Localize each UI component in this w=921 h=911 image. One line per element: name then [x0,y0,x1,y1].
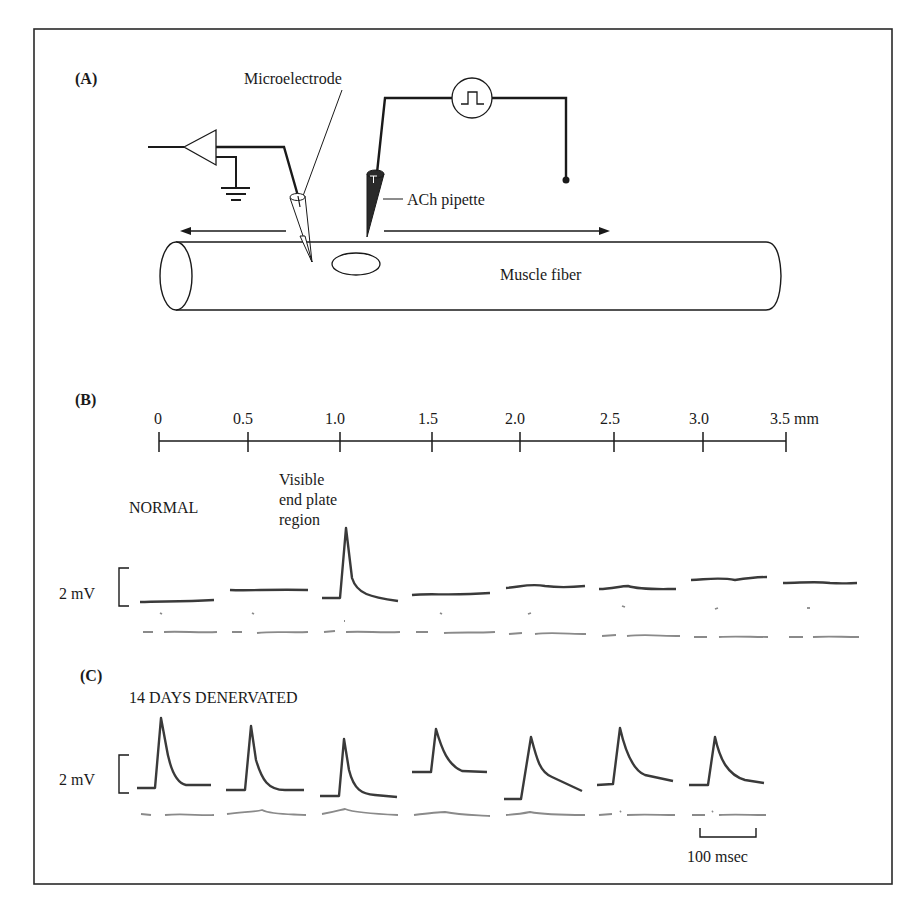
microelectrode-leader [303,90,342,196]
panel-c: (C) 14 DAYS DENERVATED 2 mV 100 msec [59,667,766,865]
scale-tick-0: 0 [154,410,162,427]
voltage-scale-label-c: 2 mV [59,771,95,788]
trace-dener-3-0 [689,737,764,785]
muscle-fiber [160,242,781,310]
end-plate-annotation-line2: end plate [279,491,337,509]
scale-tick-0-5: 0.5 [233,410,253,427]
end-plate-annotation-line3: region [279,511,320,529]
scale-tick-1-0: 1.0 [325,410,345,427]
amplifier-icon [148,130,298,196]
panel-b: (B) 0 0.5 1.0 1.5 2.0 2.5 3.0 3.5 mm NOR… [59,391,859,637]
ach-pipette-icon [367,170,384,237]
scale-tick-3-5-mm: 3.5 mm [770,410,819,427]
right-arrow-icon [384,227,610,235]
end-plate-annotation-line1: Visible [279,471,324,488]
trace-normal-1-0 [322,528,398,601]
end-plate-region [332,253,380,275]
trace-normal-2-0 [506,585,585,588]
denervated-label: 14 DAYS DENERVATED [129,689,298,706]
scale-tick-2-5: 2.5 [600,410,620,427]
trace-dener-1-0 [320,739,397,797]
trace-normal-3-5 [783,582,857,583]
figure: (A) Microelectrode [0,0,921,911]
trace-normal-0-5 [230,590,308,591]
denervated-stim-traces [141,809,766,816]
trace-normal-3-0 [691,577,767,580]
trace-normal-1-5 [412,593,490,595]
voltage-scale-label-b: 2 mV [59,585,95,602]
pulse-generator-icon [377,78,570,184]
scale-tick-3-0: 3.0 [689,410,709,427]
voltage-scale-bar-b [119,568,129,606]
panel-c-label: (C) [80,667,102,685]
left-arrow-icon [180,227,286,235]
microelectrode-label: Microelectrode [244,70,342,87]
trace-dener-1-5 [412,729,487,772]
panel-b-label: (B) [75,391,96,409]
time-scale-bar [700,828,756,837]
denervated-traces [137,718,764,799]
panel-a-label: (A) [75,70,97,88]
trace-normal-0 [140,600,214,602]
time-scale-label: 100 msec [687,848,748,865]
scale-tick-1-5: 1.5 [418,410,438,427]
trace-normal-2-5 [599,586,676,589]
distance-scale: 0 0.5 1.0 1.5 2.0 2.5 3.0 3.5 mm [154,410,819,452]
trace-dener-0 [137,718,211,788]
ach-pipette-label: ACh pipette [407,191,485,209]
normal-stim-traces [143,606,859,637]
trace-dener-2-5 [597,728,673,785]
panel-a: (A) Microelectrode [75,70,781,310]
trace-dener-2-0 [504,737,582,799]
muscle-fiber-label: Muscle fiber [500,266,582,283]
ground-icon [221,188,250,200]
scale-tick-2-0: 2.0 [505,410,525,427]
figure-frame [34,29,892,884]
voltage-scale-bar-c [119,755,129,793]
trace-dener-0-5 [226,726,304,790]
normal-traces [140,528,857,602]
normal-label: NORMAL [129,499,198,516]
